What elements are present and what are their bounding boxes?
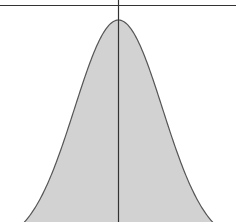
bell-curve-chart — [0, 0, 236, 222]
